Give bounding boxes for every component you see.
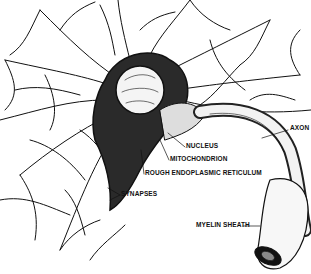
label-axon: AXON	[290, 125, 309, 132]
nucleus	[116, 66, 164, 114]
label-synapses: SYNAPSES	[121, 191, 157, 198]
label-myelin-sheath: MYELIN SHEATH	[196, 222, 250, 229]
label-mitochondrion: MITOCHONDRION	[170, 156, 228, 163]
neuron-diagram: AXON NUCLEUS MITOCHONDRION ROUGH ENDOPLA…	[0, 0, 311, 274]
label-rough-endoplasmic-reticulum: ROUGH ENDOPLASMIC RETICULUM	[145, 170, 262, 177]
neuron-illustration	[0, 0, 311, 274]
label-nucleus: NUCLEUS	[186, 143, 218, 150]
